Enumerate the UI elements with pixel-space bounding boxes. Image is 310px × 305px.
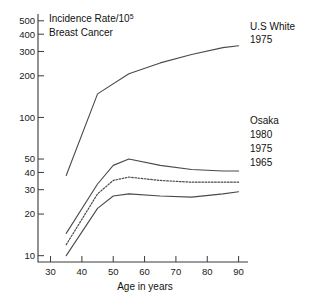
series-line: [66, 177, 238, 245]
y-tick-label: 400: [19, 29, 35, 40]
series-label-osaka-1965: 1965: [250, 157, 273, 168]
x-axis-ticks: [51, 256, 239, 262]
y-tick-label: 40: [24, 167, 35, 178]
series-label-us-white-name: U.S White: [250, 21, 295, 32]
series-label-osaka-1975: 1975: [250, 143, 273, 154]
x-tick-label: 60: [139, 266, 150, 277]
chart-figure: 1020304050100200300400500 30405060708090…: [0, 0, 310, 305]
y-axis-tick-labels: 1020304050100200300400500: [19, 15, 35, 261]
series-label-us-white-year: 1975: [250, 34, 273, 45]
series-line: [66, 159, 238, 233]
series-label-osaka-1980: 1980: [250, 129, 273, 140]
y-tick-label: 300: [19, 46, 35, 57]
x-axis-tick-labels: 30405060708090: [45, 266, 244, 277]
y-tick-label: 50: [24, 153, 35, 164]
y-tick-label: 500: [19, 15, 35, 26]
x-tick-label: 70: [171, 266, 182, 277]
x-tick-label: 80: [202, 266, 213, 277]
x-tick-label: 40: [77, 266, 88, 277]
incidence-rate-line-chart: 1020304050100200300400500 30405060708090…: [0, 0, 310, 305]
chart-axes: [38, 14, 248, 262]
y-tick-label: 20: [24, 208, 35, 219]
y-tick-label: 200: [19, 70, 35, 81]
series-line: [66, 46, 238, 176]
series-lines: [66, 46, 238, 256]
chart-subtitle: Breast Cancer: [49, 27, 114, 38]
x-axis-title: Age in years: [117, 281, 173, 292]
x-tick-label: 30: [45, 266, 56, 277]
series-line: [66, 192, 238, 256]
y-tick-label: 30: [24, 184, 35, 195]
chart-title: Incidence Rate/105: [49, 13, 134, 25]
y-axis-ticks: [38, 21, 44, 256]
y-tick-label: 10: [24, 250, 35, 261]
x-tick-label: 50: [108, 266, 119, 277]
x-tick-label: 90: [233, 266, 244, 277]
y-tick-label: 100: [19, 112, 35, 123]
series-label-osaka-name: Osaka: [250, 115, 279, 126]
